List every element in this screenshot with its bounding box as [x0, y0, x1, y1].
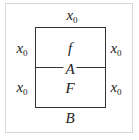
label-left-upper: x0 [16, 41, 27, 58]
label-upper-region: f [68, 41, 72, 56]
label-left-lower: x0 [16, 80, 27, 97]
label-right-lower: x0 [110, 80, 121, 97]
label-bottom: B [65, 111, 74, 126]
label-divider: A [63, 62, 76, 77]
label-top: x0 [66, 8, 77, 25]
label-right-upper: x0 [110, 41, 121, 58]
label-lower-region: F [65, 81, 74, 96]
